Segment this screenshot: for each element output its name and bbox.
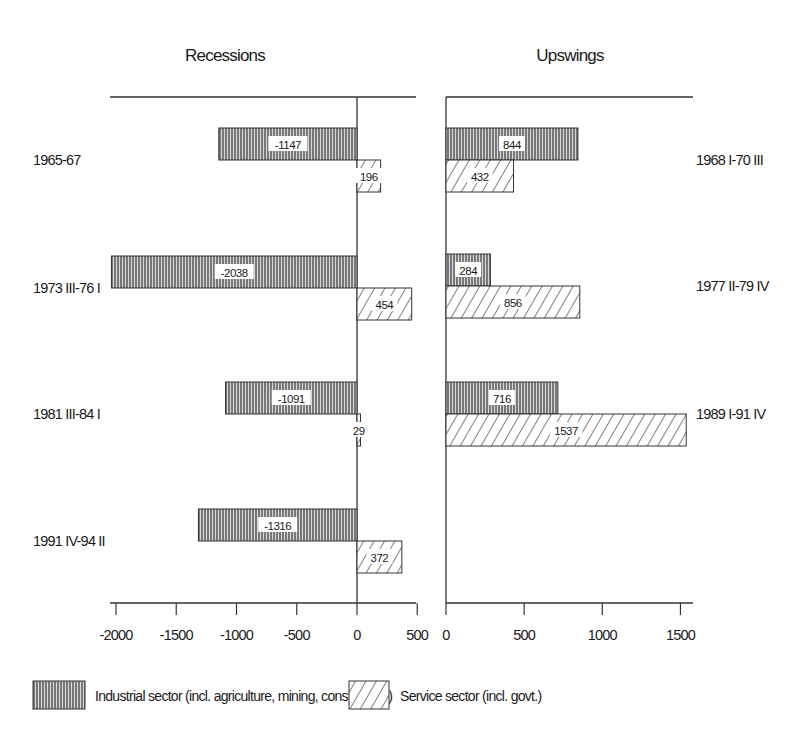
bar-group: 71615371989 I-91 IV [446, 382, 767, 446]
panel-title-recessions: Recessions [185, 46, 265, 65]
chart-canvas: Recessions Upswings -11471961965-67-2038… [0, 0, 802, 742]
bar-group: 8444321968 I-70 III [446, 128, 763, 192]
value-label: 29 [353, 425, 365, 437]
recession-x-axis: -2000-1500-1000-5000500 [99, 603, 428, 643]
category-label: 1973 III-76 I [33, 280, 100, 296]
tick-label: 500 [406, 627, 429, 643]
tick-label: 1000 [588, 627, 618, 643]
legend-swatch-service [349, 681, 389, 709]
legend: Industrial sector (incl. agriculture, mi… [33, 681, 541, 709]
value-label: 856 [504, 297, 522, 309]
tick-label: 500 [513, 627, 536, 643]
bar-group: -13163721991 IV-94 II [33, 509, 402, 573]
value-label: 432 [471, 171, 489, 183]
category-label: 1977 II-79 IV [696, 278, 770, 294]
tick-label: 0 [353, 627, 361, 643]
category-label: 1981 III-84 I [33, 406, 100, 422]
upswing-bars: 8444321968 I-70 III2848561977 II-79 IV71… [446, 128, 770, 446]
value-label: 844 [503, 139, 522, 151]
bar-group: 2848561977 II-79 IV [446, 254, 770, 318]
bar-group: -1091291981 III-84 I [33, 382, 368, 446]
category-label: 1965-67 [33, 152, 81, 168]
value-label: 1537 [554, 425, 578, 437]
value-label: 454 [376, 299, 395, 311]
value-label: -1316 [264, 520, 291, 532]
tick-label: -2000 [99, 627, 133, 643]
tick-label: 0 [442, 627, 450, 643]
upswing-x-axis: 050010001500 [442, 603, 695, 643]
category-label: 1991 IV-94 II [33, 533, 105, 549]
value-label: 372 [371, 552, 389, 564]
tick-label: -1500 [160, 627, 194, 643]
legend-label-industrial: Industrial sector (incl. agriculture, mi… [95, 688, 392, 704]
tick-label: -1000 [220, 627, 254, 643]
recession-bars: -11471961965-67-20384541973 III-76 I-109… [33, 128, 412, 573]
value-label: -1147 [275, 139, 301, 151]
value-label: 196 [360, 171, 378, 183]
tick-label: 1500 [666, 627, 696, 643]
bar-group: -20384541973 III-76 I [33, 256, 412, 320]
panel-title-upswings: Upswings [536, 46, 604, 65]
value-label: 284 [459, 265, 478, 277]
bar-group: -11471961965-67 [33, 128, 382, 192]
value-label: -2038 [221, 267, 248, 279]
tick-label: -500 [284, 627, 311, 643]
category-label: 1968 I-70 III [696, 152, 763, 168]
legend-label-service: Service sector (incl. govt.) [400, 688, 541, 704]
value-label: 716 [493, 393, 511, 405]
value-label: -1091 [278, 393, 305, 405]
legend-swatch-industrial [33, 681, 85, 709]
category-label: 1989 I-91 IV [696, 406, 767, 422]
